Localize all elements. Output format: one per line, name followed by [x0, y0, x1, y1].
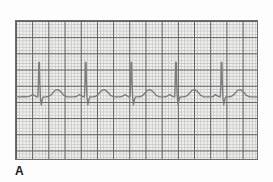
ecg-waveform-path — [16, 62, 257, 104]
ecg-trace — [16, 21, 257, 159]
ecg-figure: A — [0, 0, 273, 182]
panel-label: A — [15, 164, 24, 178]
ecg-strip — [15, 20, 258, 160]
